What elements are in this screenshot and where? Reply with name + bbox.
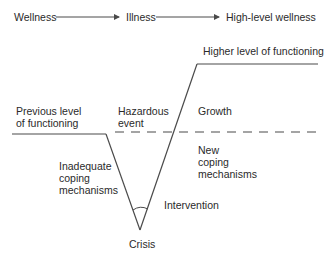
label-inadequate-1: Inadequate: [59, 160, 112, 172]
label-new-coping-1: New: [198, 144, 219, 156]
label-intervention: Intervention: [164, 199, 219, 211]
label-new-coping-2: coping: [198, 156, 229, 168]
label-previous-level-2: of functioning: [16, 117, 78, 129]
descent-line: [106, 134, 140, 230]
label-previous-level-1: Previous level: [16, 105, 81, 117]
label-growth: Growth: [198, 105, 232, 117]
label-inadequate-2: coping: [59, 172, 90, 184]
label-inadequate-3: mechanisms: [59, 184, 118, 196]
label-hazardous-1: Hazardous: [118, 105, 169, 117]
label-higher-level: Higher level of functioning: [203, 45, 324, 57]
intervention-arc: [133, 207, 148, 210]
label-new-coping-3: mechanisms: [198, 168, 257, 180]
label-hazardous-2: event: [118, 117, 144, 129]
label-crisis: Crisis: [129, 238, 155, 250]
